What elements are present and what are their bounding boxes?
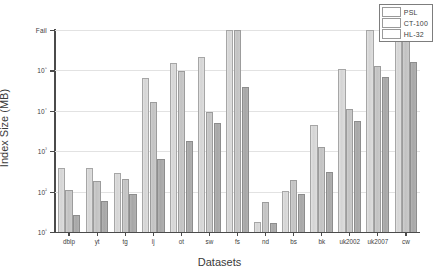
bar-ct-100-uk2002[interactable] — [346, 109, 353, 232]
x-axis-tick — [405, 232, 406, 236]
bar-ct-100-bk[interactable] — [318, 147, 325, 232]
plot-area: 10¹10²10³10⁴10⁵Faildblpyttgljotswfsndbsb… — [55, 30, 420, 232]
x-axis-tick — [237, 232, 238, 236]
x-axis-tick-label: cw — [402, 238, 410, 245]
bar-hl-32-bs[interactable] — [298, 194, 305, 232]
y-axis-tick — [50, 232, 55, 233]
legend-item-psl[interactable]: PSL — [382, 7, 428, 17]
x-axis-tick-label: bk — [318, 238, 325, 245]
bar-psl-yt[interactable] — [86, 168, 93, 232]
y-axis-tick — [50, 70, 55, 71]
x-axis-tick — [209, 232, 210, 236]
legend-label: HL-32 — [404, 31, 424, 38]
bar-group — [366, 30, 389, 232]
x-axis-tick-label: dblp — [63, 238, 75, 245]
y-axis-tick-label: 10¹ — [38, 228, 47, 236]
x-axis-tick — [125, 232, 126, 236]
x-axis-tick — [377, 232, 378, 236]
bar-chart-figure: Index Size (MB) Datasets 10¹10²10³10⁴10⁵… — [0, 0, 439, 277]
y-axis-tick — [50, 192, 55, 193]
bar-psl-lj[interactable] — [142, 78, 149, 232]
bar-hl-32-fs[interactable] — [242, 87, 249, 232]
bar-ct-100-yt[interactable] — [93, 181, 100, 232]
bar-group — [338, 30, 361, 232]
x-axis-tick-label: uk2002 — [339, 238, 360, 245]
chart-legend: PSL CT-100 HL-32 — [379, 4, 433, 42]
y-axis-tick-label: 10² — [38, 188, 47, 196]
x-axis-tick-label: uk2007 — [368, 238, 389, 245]
legend-item-ct-100[interactable]: CT-100 — [382, 18, 428, 28]
bar-psl-tg[interactable] — [114, 173, 121, 232]
x-axis-tick — [349, 232, 350, 236]
bar-hl-32-bk[interactable] — [326, 172, 333, 232]
bar-psl-nd[interactable] — [254, 222, 261, 232]
legend-swatch-icon — [382, 7, 401, 17]
y-axis-tick-label: 10⁵ — [37, 66, 47, 74]
x-axis-tick-label: sw — [206, 238, 214, 245]
y-axis-tick — [50, 151, 55, 152]
y-axis-tick — [50, 30, 55, 31]
y-axis-tick — [50, 111, 55, 112]
legend-label: CT-100 — [404, 20, 428, 27]
bar-group — [226, 30, 249, 232]
bar-psl-cw[interactable] — [395, 30, 402, 232]
bar-ct-100-ot[interactable] — [178, 71, 185, 232]
bar-ct-100-bs[interactable] — [290, 180, 297, 232]
bar-ct-100-tg[interactable] — [122, 179, 129, 232]
bar-ct-100-lj[interactable] — [150, 102, 157, 233]
bar-hl-32-lj[interactable] — [157, 159, 164, 233]
bar-group — [58, 30, 81, 232]
bar-psl-sw[interactable] — [198, 57, 205, 232]
bar-ct-100-sw[interactable] — [206, 112, 213, 232]
bar-group — [142, 30, 165, 232]
bar-psl-fs[interactable] — [226, 30, 233, 232]
legend-label: PSL — [404, 9, 418, 16]
bar-group — [198, 30, 221, 232]
bar-hl-32-nd[interactable] — [270, 223, 277, 232]
bar-group — [282, 30, 305, 232]
x-axis-tick — [68, 232, 69, 236]
x-axis-tick — [97, 232, 98, 236]
y-axis-title: Index Size (MB) — [0, 89, 10, 167]
bar-psl-ot[interactable] — [170, 63, 177, 232]
bar-group — [86, 30, 109, 232]
x-axis-tick-label: ot — [179, 238, 184, 245]
bar-ct-100-dblp[interactable] — [65, 190, 72, 232]
x-axis-tick-label: yt — [95, 238, 100, 245]
bar-group — [114, 30, 137, 232]
bar-hl-32-dblp[interactable] — [73, 215, 80, 232]
bar-psl-uk2007[interactable] — [366, 30, 373, 232]
bar-group — [310, 30, 333, 232]
legend-swatch-icon — [382, 18, 401, 28]
x-axis-tick-label: tg — [123, 238, 128, 245]
bar-ct-100-fs[interactable] — [234, 30, 241, 232]
bar-hl-32-sw[interactable] — [214, 123, 221, 232]
bar-hl-32-uk2002[interactable] — [354, 121, 361, 232]
bar-ct-100-cw[interactable] — [402, 30, 409, 232]
bar-ct-100-nd[interactable] — [262, 202, 269, 232]
legend-swatch-icon — [382, 29, 401, 39]
bar-hl-32-tg[interactable] — [129, 194, 136, 232]
bar-psl-bk[interactable] — [310, 125, 317, 232]
bar-group — [254, 30, 277, 232]
x-axis-title: Datasets — [0, 256, 439, 268]
x-axis-tick-label: lj — [152, 238, 155, 245]
bar-group — [170, 30, 193, 232]
bar-psl-dblp[interactable] — [58, 168, 65, 232]
y-axis-tick-label: 10⁴ — [37, 107, 47, 115]
bar-psl-bs[interactable] — [282, 191, 289, 232]
bar-psl-uk2002[interactable] — [338, 69, 345, 232]
x-axis-tick — [181, 232, 182, 236]
bar-ct-100-uk2007[interactable] — [374, 66, 381, 232]
x-axis-tick-label: fs — [235, 238, 240, 245]
x-axis-tick-label: nd — [262, 238, 269, 245]
y-axis-tick-label: 10³ — [38, 147, 47, 155]
bar-hl-32-uk2007[interactable] — [382, 77, 389, 232]
bar-hl-32-cw[interactable] — [410, 62, 417, 232]
y-axis-tick-label: Fail — [36, 27, 47, 34]
bar-hl-32-yt[interactable] — [101, 201, 108, 232]
x-axis-tick — [153, 232, 154, 236]
bar-hl-32-ot[interactable] — [186, 141, 193, 232]
legend-item-hl-32[interactable]: HL-32 — [382, 29, 428, 39]
x-axis-tick — [321, 232, 322, 236]
